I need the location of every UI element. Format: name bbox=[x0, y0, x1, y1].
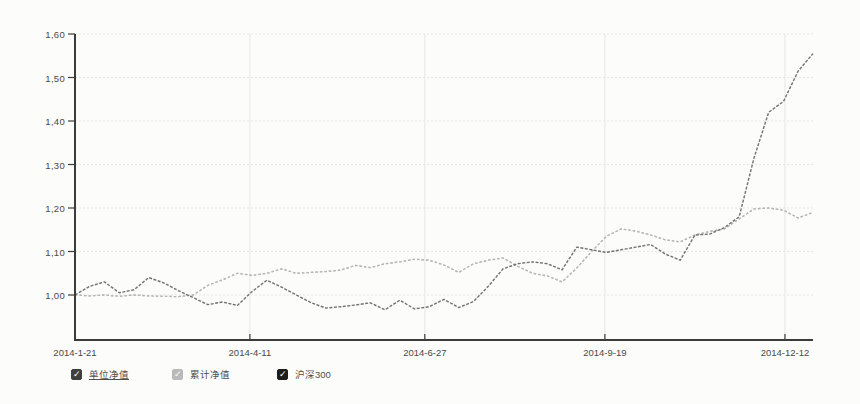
legend-item-unit-nav: ✓单位净值 bbox=[71, 367, 129, 381]
x-tick-label: 2014-4-11 bbox=[215, 347, 285, 358]
legend-checkbox-csi300[interactable]: ✓ bbox=[277, 369, 288, 380]
plot-area bbox=[0, 0, 860, 404]
x-tick-label: 2014-12-12 bbox=[750, 347, 820, 358]
legend-checkbox-unit-nav[interactable]: ✓ bbox=[71, 369, 82, 380]
legend-label-cum-nav: 累计净值 bbox=[190, 367, 230, 381]
y-tick-label: 1,00 bbox=[23, 290, 65, 301]
y-tick-label: 1,20 bbox=[23, 203, 65, 214]
csi300-line bbox=[75, 54, 813, 310]
legend-label-csi300: 沪深300 bbox=[295, 367, 331, 381]
legend-checkbox-cum-nav[interactable]: ✓ bbox=[172, 369, 183, 380]
y-tick-label: 1,50 bbox=[23, 73, 65, 84]
y-tick-label: 1,40 bbox=[23, 116, 65, 127]
cum-nav-line bbox=[75, 208, 813, 297]
legend-label-unit-nav[interactable]: 单位净值 bbox=[89, 367, 129, 381]
y-tick-label: 1,10 bbox=[23, 247, 65, 258]
unit-nav-line bbox=[75, 208, 813, 297]
x-tick-label: 2014-6-27 bbox=[390, 347, 460, 358]
x-tick-label: 2014-9-19 bbox=[570, 347, 640, 358]
y-tick-label: 1,30 bbox=[23, 160, 65, 171]
chart-legend: ✓单位净值✓累计净值✓沪深300 bbox=[0, 367, 860, 387]
y-tick-label: 1,60 bbox=[23, 29, 65, 40]
x-tick-label: 2014-1-21 bbox=[40, 347, 110, 358]
legend-item-csi300: ✓沪深300 bbox=[277, 367, 331, 381]
legend-item-cum-nav: ✓累计净值 bbox=[172, 367, 230, 381]
fund-performance-chart: 1,001,101,201,301,401,501,60 2014-1-2120… bbox=[0, 0, 860, 404]
